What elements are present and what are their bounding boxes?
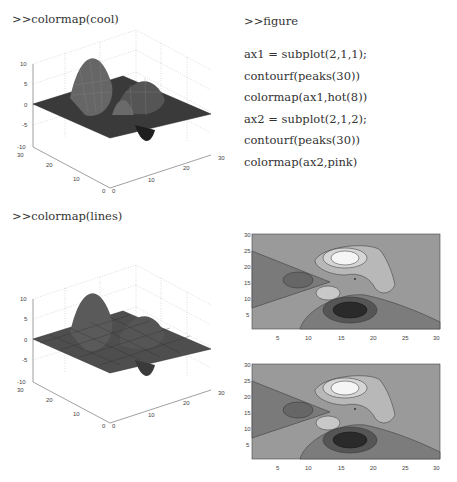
svg-text:5: 5 <box>246 442 250 448</box>
svg-text:15: 15 <box>244 410 251 416</box>
svg-text:10: 10 <box>244 296 251 302</box>
svg-text:0: 0 <box>102 188 106 194</box>
svg-text:15: 15 <box>338 335 345 341</box>
svg-text:30: 30 <box>218 390 225 396</box>
surface-plot-cool: 1050 -5-10 3020100 0102030 <box>0 30 230 200</box>
svg-text:15: 15 <box>244 280 251 286</box>
svg-text:0: 0 <box>112 423 116 429</box>
svg-text:5: 5 <box>24 316 28 322</box>
svg-text:20: 20 <box>46 162 53 168</box>
svg-text:25: 25 <box>244 378 251 384</box>
svg-text:10: 10 <box>305 465 312 471</box>
svg-text:-5: -5 <box>22 122 28 128</box>
svg-text:30: 30 <box>433 335 440 341</box>
command-colormap-cool: >>colormap(cool) <box>12 12 119 26</box>
code-line: ax2 = subplot(2,1,2); <box>244 109 367 131</box>
svg-text:20: 20 <box>46 397 53 403</box>
code-line: colormap(ax2,pink) <box>244 152 367 174</box>
code-line: colormap(ax1,hot(8)) <box>244 87 367 109</box>
svg-text:20: 20 <box>183 165 190 171</box>
svg-text:10: 10 <box>244 426 251 432</box>
svg-text:20: 20 <box>370 335 377 341</box>
contour-plot-pink: 30252015105 51015202530 <box>230 350 457 482</box>
svg-text:10: 10 <box>148 412 155 418</box>
svg-text:25: 25 <box>402 465 409 471</box>
svg-text:25: 25 <box>402 335 409 341</box>
svg-text:5: 5 <box>24 81 28 87</box>
svg-text:30: 30 <box>244 232 251 238</box>
svg-text:20: 20 <box>370 465 377 471</box>
svg-text:10: 10 <box>73 411 80 417</box>
svg-text:20: 20 <box>244 394 251 400</box>
svg-text:15: 15 <box>338 465 345 471</box>
svg-text:10: 10 <box>73 176 80 182</box>
svg-text:30: 30 <box>17 387 24 393</box>
svg-text:30: 30 <box>218 155 225 161</box>
command-figure: >>figure <box>244 14 298 28</box>
svg-text:10: 10 <box>20 61 27 67</box>
code-line: contourf(peaks(30)) <box>244 66 367 88</box>
svg-text:-5: -5 <box>22 357 28 363</box>
svg-text:0: 0 <box>102 423 106 429</box>
svg-text:30: 30 <box>244 362 251 368</box>
svg-text:10: 10 <box>148 177 155 183</box>
svg-text:5: 5 <box>246 312 250 318</box>
svg-text:10: 10 <box>305 335 312 341</box>
svg-text:25: 25 <box>244 248 251 254</box>
svg-text:-10: -10 <box>17 379 26 385</box>
command-colormap-lines: >>colormap(lines) <box>12 209 122 223</box>
svg-text:-10: -10 <box>17 144 26 150</box>
code-line: contourf(peaks(30)) <box>244 130 367 152</box>
svg-text:30: 30 <box>17 152 24 158</box>
svg-text:0: 0 <box>24 337 28 343</box>
surface-plot-lines: 1050 -5-10 3020100 0102030 <box>0 265 230 435</box>
svg-text:0: 0 <box>112 188 116 194</box>
svg-text:30: 30 <box>433 465 440 471</box>
svg-text:20: 20 <box>244 264 251 270</box>
code-line: ax1 = subplot(2,1,1); <box>244 44 367 66</box>
svg-text:5: 5 <box>276 465 280 471</box>
svg-text:5: 5 <box>276 335 280 341</box>
svg-text:10: 10 <box>20 296 27 302</box>
code-block: ax1 = subplot(2,1,1); contourf(peaks(30)… <box>244 44 367 174</box>
contour-plot-hot: 30252015105 51015202530 <box>230 220 457 350</box>
svg-text:20: 20 <box>183 400 190 406</box>
svg-text:0: 0 <box>24 102 28 108</box>
